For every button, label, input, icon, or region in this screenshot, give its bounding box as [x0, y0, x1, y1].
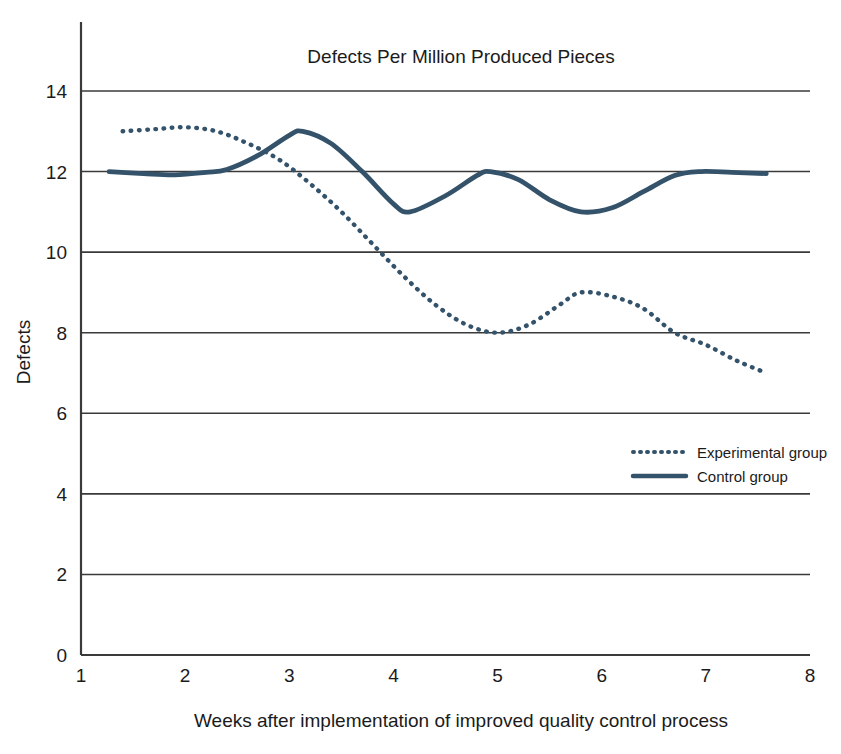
y-tick-label-14: 14 — [46, 81, 68, 102]
x-tick-label-8: 8 — [805, 665, 816, 686]
legend-label-control-group: Control group — [697, 468, 788, 485]
x-tick-label-1: 1 — [76, 665, 87, 686]
line-chart: 02468101214 12345678 Defects Per Million… — [0, 0, 841, 754]
y-axis-title: Defects — [13, 320, 34, 384]
y-tick-label-4: 4 — [56, 484, 67, 505]
y-axis-tick-labels: 02468101214 — [46, 81, 68, 666]
legend-label-experimental-group: Experimental group — [697, 444, 827, 461]
chart-page: 02468101214 12345678 Defects Per Million… — [0, 0, 841, 754]
x-tick-label-6: 6 — [596, 665, 607, 686]
grid-lines — [81, 91, 810, 574]
legend-item-experimental-group: Experimental group — [633, 444, 827, 461]
chart-title: Defects Per Million Produced Pieces — [307, 46, 614, 67]
y-tick-label-8: 8 — [56, 323, 67, 344]
x-axis-title: Weeks after implementation of improved q… — [194, 710, 728, 731]
axis-lines — [81, 22, 810, 655]
y-tick-label-0: 0 — [56, 645, 67, 666]
y-tick-label-6: 6 — [56, 403, 67, 424]
legend-item-control-group: Control group — [633, 468, 788, 485]
x-tick-label-5: 5 — [492, 665, 503, 686]
x-tick-label-4: 4 — [388, 665, 399, 686]
x-tick-label-2: 2 — [180, 665, 191, 686]
y-tick-label-2: 2 — [56, 564, 67, 585]
series-line-experimental-group — [123, 127, 767, 373]
x-tick-label-7: 7 — [701, 665, 712, 686]
x-axis-tick-labels: 12345678 — [76, 665, 816, 686]
chart-legend: Experimental group Control group — [633, 444, 827, 485]
y-tick-label-12: 12 — [46, 162, 67, 183]
x-tick-label-3: 3 — [284, 665, 295, 686]
y-tick-label-10: 10 — [46, 242, 67, 263]
data-series-group — [109, 127, 766, 373]
